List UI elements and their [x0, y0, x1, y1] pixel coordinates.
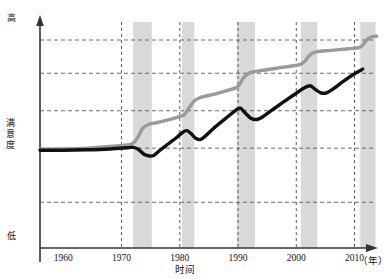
plot-area: 高 低 满意度 196019701980199020002010 时间 （年）: [0, 0, 388, 279]
x-tick-label: 1990: [229, 253, 248, 263]
x-axis-title: 时间: [175, 262, 195, 276]
x-tick-label: 1970: [112, 253, 131, 263]
y-axis-low-label: 低: [7, 232, 16, 241]
recession-bands: [133, 22, 375, 248]
recession-band: [237, 22, 255, 248]
x-tick-label: 1960: [54, 253, 73, 263]
horizontal-gridlines: [40, 40, 376, 202]
y-axis-high-label: 高: [7, 14, 16, 23]
y-axis-title-char: 意: [4, 129, 16, 140]
y-axis-title: 满意度: [4, 118, 16, 151]
x-axis-unit-label: （年）: [358, 253, 388, 267]
y-axis-title-char: 度: [4, 140, 16, 151]
recession-band: [360, 22, 375, 248]
x-tick-label: 2000: [287, 253, 306, 263]
y-axis-title-char: 满: [4, 118, 16, 129]
y-axis-arrow-icon: [36, 15, 44, 26]
line-chart-svg: [0, 0, 388, 279]
data-series-group: [40, 36, 377, 156]
recession-band: [133, 22, 152, 248]
chart-figure: 高 低 满意度 196019701980199020002010 时间 （年）: [0, 0, 388, 279]
